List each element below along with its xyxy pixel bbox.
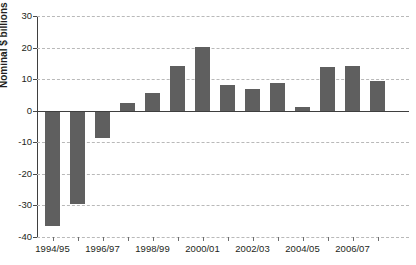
y-axis-tick-label: 0 xyxy=(27,106,32,116)
x-axis-tick-label: 1994/95 xyxy=(35,244,69,254)
gridline xyxy=(37,174,409,175)
gridline xyxy=(37,48,409,49)
zero-axis-line xyxy=(37,111,409,112)
bar xyxy=(195,47,210,111)
y-axis-tick xyxy=(33,48,37,49)
x-axis-tick-label: 1998/99 xyxy=(135,244,169,254)
y-axis-tick xyxy=(33,174,37,175)
y-axis-tick xyxy=(33,142,37,143)
y-axis-tick-label: -20 xyxy=(18,169,32,179)
bar xyxy=(95,111,110,138)
bar xyxy=(345,66,360,111)
bar xyxy=(220,85,235,110)
x-axis-tick-label: 2000/01 xyxy=(185,244,219,254)
x-axis-tick-label: 2006/07 xyxy=(335,244,369,254)
y-axis-tick-label: 20 xyxy=(21,43,32,53)
bar xyxy=(370,81,385,110)
gridline xyxy=(37,205,409,206)
y-axis-tick-label: -30 xyxy=(18,201,32,211)
bar xyxy=(45,111,60,226)
y-axis-tick-labels: 3020100-10-20-30-40 xyxy=(0,16,32,237)
bar xyxy=(320,67,335,110)
y-axis-tick xyxy=(33,237,37,238)
y-axis-tick-label: -10 xyxy=(18,138,32,148)
y-axis-tick xyxy=(33,16,37,17)
bar xyxy=(145,93,160,110)
bar-chart: Nominal $ billions 3020100-10-20-30-40 1… xyxy=(0,0,416,265)
plot-area xyxy=(37,16,409,237)
y-axis-tick-label: 30 xyxy=(21,11,32,21)
y-axis-tick xyxy=(33,205,37,206)
x-axis-tick-labels: 1994/951996/971998/992000/012002/032004/… xyxy=(37,240,409,262)
y-axis-tick-label: -40 xyxy=(18,232,32,242)
bar xyxy=(70,111,85,204)
bar xyxy=(170,66,185,111)
gridline xyxy=(37,142,409,143)
gridline xyxy=(37,16,409,17)
y-axis-tick xyxy=(33,79,37,80)
bar xyxy=(120,103,135,111)
x-axis-tick-label: 1996/97 xyxy=(85,244,119,254)
bar xyxy=(245,89,260,110)
x-axis-tick-label: 2004/05 xyxy=(285,244,319,254)
bar xyxy=(270,83,285,111)
x-axis-tick-label: 2002/03 xyxy=(235,244,269,254)
y-axis-tick-label: 10 xyxy=(21,74,32,84)
y-axis-line xyxy=(37,16,38,237)
